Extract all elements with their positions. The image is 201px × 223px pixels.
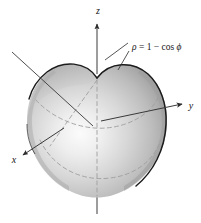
z-axis-label: z <box>95 5 100 16</box>
x-axis-label: x <box>11 154 17 165</box>
equation-label: ρ = 1 − cos ϕ <box>131 42 182 52</box>
y-axis-label: y <box>188 100 194 111</box>
equation-cos-function: cos <box>162 42 175 52</box>
equation-phi-symbol: ϕ <box>177 42 182 52</box>
cardioid-revolution-figure: z y x ρ = 1 − cos ϕ <box>0 0 201 223</box>
